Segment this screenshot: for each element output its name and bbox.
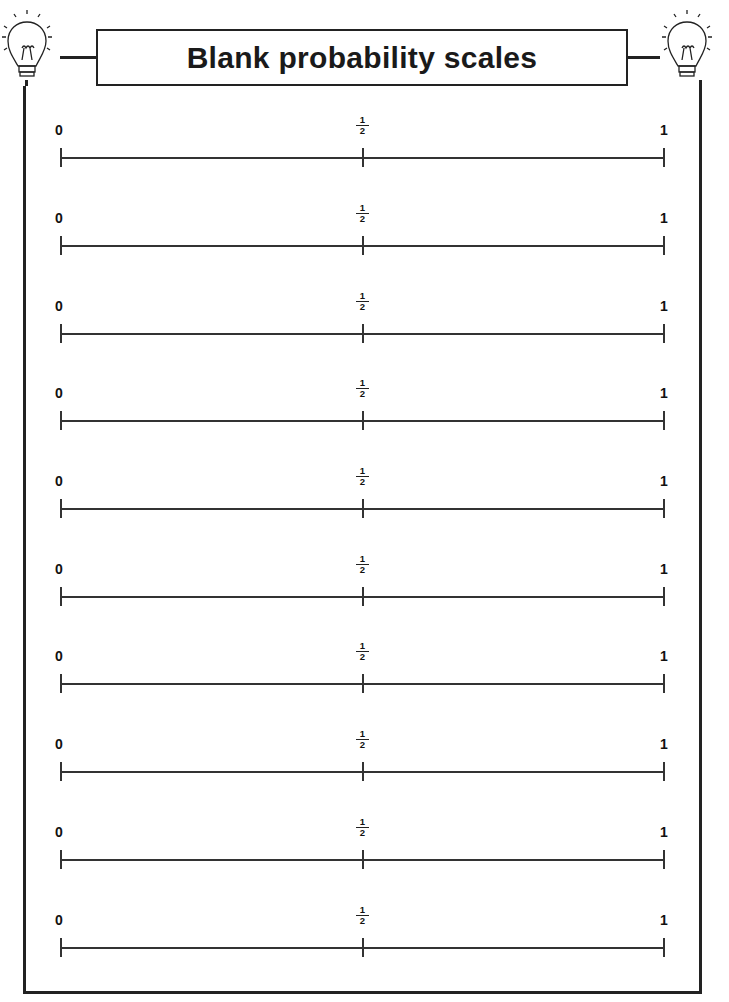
probability-scale: 0 1 2 1 xyxy=(0,297,729,385)
fraction-numerator: 1 xyxy=(360,202,365,213)
fraction-denominator: 2 xyxy=(360,915,365,926)
scale-mid-label: 1 2 xyxy=(355,554,370,575)
tick-end xyxy=(663,938,665,957)
tick-mid xyxy=(362,411,364,430)
probability-scale: 0 1 2 1 xyxy=(0,121,729,209)
tick-start xyxy=(60,411,62,430)
fraction-denominator: 2 xyxy=(360,739,365,750)
scale-mid-label: 1 2 xyxy=(355,115,370,136)
lightbulb-icon xyxy=(0,4,60,86)
scale-end-label: 1 xyxy=(660,210,668,226)
probability-scale: 0 1 2 1 xyxy=(0,209,729,297)
fraction-denominator: 2 xyxy=(360,476,365,487)
fraction-numerator: 1 xyxy=(360,728,365,739)
tick-end xyxy=(663,674,665,693)
scale-end-label: 1 xyxy=(660,648,668,664)
scale-end-label: 1 xyxy=(660,122,668,138)
fraction-denominator: 2 xyxy=(360,301,365,312)
tick-start xyxy=(60,674,62,693)
scale-mid-label: 1 2 xyxy=(355,729,370,750)
tick-end xyxy=(663,148,665,167)
scale-start-label: 0 xyxy=(55,385,63,401)
tick-mid xyxy=(362,236,364,255)
tick-start xyxy=(60,938,62,957)
title-box: Blank probability scales xyxy=(96,29,628,86)
tick-mid xyxy=(362,762,364,781)
scale-start-label: 0 xyxy=(55,912,63,928)
scale-mid-label: 1 2 xyxy=(355,641,370,662)
fraction-numerator: 1 xyxy=(360,640,365,651)
fraction-numerator: 1 xyxy=(360,816,365,827)
tick-end xyxy=(663,762,665,781)
scale-mid-label: 1 2 xyxy=(355,466,370,487)
scale-end-label: 1 xyxy=(660,473,668,489)
fraction-denominator: 2 xyxy=(360,388,365,399)
fraction-denominator: 2 xyxy=(360,564,365,575)
probability-scale: 0 1 2 1 xyxy=(0,560,729,648)
fraction-numerator: 1 xyxy=(360,904,365,915)
fraction-denominator: 2 xyxy=(360,125,365,136)
title-connector-right xyxy=(626,56,660,59)
probability-scale: 0 1 2 1 xyxy=(0,384,729,472)
fraction-numerator: 1 xyxy=(360,114,365,125)
tick-start xyxy=(60,499,62,518)
scale-start-label: 0 xyxy=(55,648,63,664)
scale-start-label: 0 xyxy=(55,824,63,840)
probability-scale: 0 1 2 1 xyxy=(0,647,729,735)
scale-end-label: 1 xyxy=(660,298,668,314)
lightbulb-icon xyxy=(660,4,720,86)
scale-start-label: 0 xyxy=(55,122,63,138)
scale-end-label: 1 xyxy=(660,736,668,752)
tick-mid xyxy=(362,499,364,518)
page-title: Blank probability scales xyxy=(187,41,538,75)
scale-end-label: 1 xyxy=(660,561,668,577)
tick-end xyxy=(663,850,665,869)
tick-mid xyxy=(362,938,364,957)
scale-mid-label: 1 2 xyxy=(355,291,370,312)
scale-start-label: 0 xyxy=(55,473,63,489)
tick-end xyxy=(663,236,665,255)
scale-mid-label: 1 2 xyxy=(355,203,370,224)
title-connector-left xyxy=(60,56,97,59)
tick-end xyxy=(663,324,665,343)
fraction-numerator: 1 xyxy=(360,553,365,564)
fraction-denominator: 2 xyxy=(360,213,365,224)
tick-mid xyxy=(362,148,364,167)
scale-mid-label: 1 2 xyxy=(355,378,370,399)
tick-end xyxy=(663,499,665,518)
tick-start xyxy=(60,850,62,869)
probability-scale: 0 1 2 1 xyxy=(0,823,729,911)
tick-start xyxy=(60,148,62,167)
scale-start-label: 0 xyxy=(55,298,63,314)
scale-end-label: 1 xyxy=(660,824,668,840)
probability-scale: 0 1 2 1 xyxy=(0,472,729,560)
fraction-numerator: 1 xyxy=(360,290,365,301)
fraction-denominator: 2 xyxy=(360,827,365,838)
tick-mid xyxy=(362,850,364,869)
scale-mid-label: 1 2 xyxy=(355,817,370,838)
tick-end xyxy=(663,587,665,606)
fraction-denominator: 2 xyxy=(360,651,365,662)
fraction-numerator: 1 xyxy=(360,465,365,476)
tick-end xyxy=(663,411,665,430)
probability-scale: 0 1 2 1 xyxy=(0,735,729,823)
tick-start xyxy=(60,587,62,606)
fraction-numerator: 1 xyxy=(360,377,365,388)
scale-start-label: 0 xyxy=(55,561,63,577)
scale-end-label: 1 xyxy=(660,912,668,928)
tick-start xyxy=(60,324,62,343)
tick-mid xyxy=(362,324,364,343)
scale-mid-label: 1 2 xyxy=(355,905,370,926)
tick-mid xyxy=(362,587,364,606)
tick-mid xyxy=(362,674,364,693)
scale-start-label: 0 xyxy=(55,210,63,226)
tick-start xyxy=(60,236,62,255)
tick-start xyxy=(60,762,62,781)
probability-scale: 0 1 2 1 xyxy=(0,911,729,999)
scale-end-label: 1 xyxy=(660,385,668,401)
scale-start-label: 0 xyxy=(55,736,63,752)
